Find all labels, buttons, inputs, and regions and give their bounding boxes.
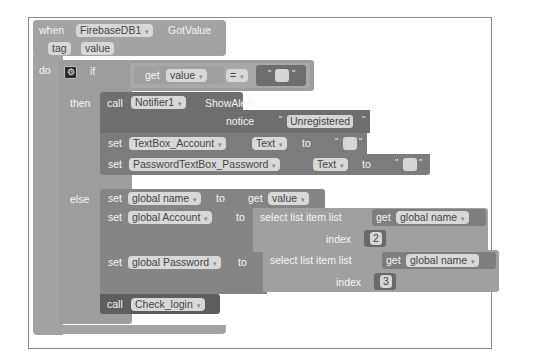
text-literal-empty[interactable] xyxy=(275,69,289,82)
component-dropdown-password-textbox[interactable]: PasswordTextBox_Password▾ xyxy=(129,158,280,171)
component-dropdown-firebasedb1[interactable]: FirebaseDB1▾ xyxy=(76,24,153,37)
to-label: to xyxy=(236,210,245,224)
else-label: else xyxy=(70,192,89,206)
component-name: TextBox_Account xyxy=(133,137,214,149)
var-dropdown-global-name[interactable]: global name▾ xyxy=(396,211,469,224)
text-literal-unregistered[interactable]: Unregistered xyxy=(287,115,353,128)
get-label: get xyxy=(386,253,401,267)
to-label: to xyxy=(216,191,225,205)
set-label: set xyxy=(108,191,122,205)
dropdown-arrow-icon: ▾ xyxy=(193,196,197,203)
var-name: value xyxy=(170,69,195,81)
dropdown-arrow-icon: ▾ xyxy=(301,196,305,203)
call-label: call xyxy=(107,297,123,311)
dropdown-arrow-icon: ▾ xyxy=(204,215,208,222)
property-name: Text xyxy=(317,158,336,170)
param-value[interactable]: value xyxy=(81,42,114,55)
quote-icon: " xyxy=(335,136,338,146)
dropdown-arrow-icon: ▾ xyxy=(197,302,201,309)
dropdown-arrow-icon: ▾ xyxy=(178,100,182,107)
var-name: global Password xyxy=(132,256,209,268)
set-label: set xyxy=(108,255,122,269)
operator: = xyxy=(230,69,236,81)
quote-icon: " xyxy=(362,114,365,124)
var-name: global name xyxy=(410,254,467,266)
select-list-item-label: select list item list xyxy=(260,210,342,224)
number-literal-2[interactable]: 2 xyxy=(370,232,382,245)
text-literal-empty[interactable] xyxy=(343,137,357,150)
component-name: Notifier1 xyxy=(135,96,174,108)
var-name: value xyxy=(272,192,297,204)
property-dropdown-text[interactable]: Text▾ xyxy=(252,137,287,150)
property-dropdown-text[interactable]: Text▾ xyxy=(313,158,348,171)
notice-label: notice xyxy=(226,114,254,128)
param-tag[interactable]: tag xyxy=(48,42,71,55)
component-name: PasswordTextBox_Password xyxy=(133,158,268,170)
dropdown-arrow-icon: ▾ xyxy=(279,141,283,148)
quote-icon: " xyxy=(359,136,362,146)
dropdown-arrow-icon: ▾ xyxy=(199,73,203,80)
text-literal-empty[interactable] xyxy=(403,158,417,171)
operator-dropdown[interactable]: =▾ xyxy=(226,69,248,82)
call-label: call xyxy=(107,96,123,110)
component-dropdown-textbox-account[interactable]: TextBox_Account▾ xyxy=(129,137,226,150)
var-dropdown-value[interactable]: value▾ xyxy=(268,192,309,205)
component-dropdown-notifier1[interactable]: Notifier1▾ xyxy=(131,96,186,109)
var-name: global Account xyxy=(132,211,200,223)
select-list-item-label: select list item list xyxy=(270,253,352,267)
quote-icon: " xyxy=(395,157,398,167)
dropdown-arrow-icon: ▾ xyxy=(240,73,244,80)
dropdown-arrow-icon: ▾ xyxy=(471,258,475,265)
mutator-gear-icon[interactable]: ⚙ xyxy=(64,66,77,79)
index-label: index xyxy=(326,232,351,246)
get-label: get xyxy=(248,191,263,205)
dropdown-arrow-icon: ▾ xyxy=(218,141,222,148)
dropdown-arrow-icon: ▾ xyxy=(213,260,217,267)
procedure-dropdown-check-login[interactable]: Check_login▾ xyxy=(131,298,205,311)
property-name: Text xyxy=(256,137,275,149)
quote-icon: " xyxy=(268,68,271,78)
dropdown-arrow-icon: ▾ xyxy=(272,162,276,169)
method-name: ShowAlert xyxy=(205,96,253,110)
dropdown-arrow-icon: ▾ xyxy=(461,215,465,222)
quote-icon: " xyxy=(419,157,422,167)
event-name: GotValue xyxy=(168,23,211,37)
dropdown-arrow-icon: ▾ xyxy=(340,162,344,169)
do-label: do xyxy=(39,63,51,77)
quote-icon: " xyxy=(292,68,295,78)
var-dropdown-value[interactable]: value▾ xyxy=(166,69,207,82)
to-label: to xyxy=(362,157,371,171)
event-block-bottom xyxy=(33,325,226,334)
dropdown-arrow-icon: ▾ xyxy=(145,28,149,35)
index-label: index xyxy=(336,275,361,289)
var-dropdown-global-name[interactable]: global name▾ xyxy=(128,192,201,205)
number-literal-3[interactable]: 3 xyxy=(380,275,392,288)
if-label: if xyxy=(90,64,95,78)
set-label: set xyxy=(108,210,122,224)
var-name: global name xyxy=(132,192,189,204)
to-label: to xyxy=(302,136,311,150)
var-dropdown-global-password[interactable]: global Password▾ xyxy=(128,256,221,269)
when-label: when xyxy=(39,23,64,37)
var-dropdown-global-name[interactable]: global name▾ xyxy=(406,254,479,267)
component-name: FirebaseDB1 xyxy=(80,24,141,36)
var-name: global name xyxy=(400,211,457,223)
to-label: to xyxy=(238,255,247,269)
quote-icon: " xyxy=(279,114,282,124)
procedure-name: Check_login xyxy=(135,298,193,310)
set-label: set xyxy=(108,157,122,171)
var-dropdown-global-account[interactable]: global Account▾ xyxy=(128,211,212,224)
set-label: set xyxy=(108,136,122,150)
then-label: then xyxy=(70,96,90,110)
get-label: get xyxy=(145,68,160,82)
get-label: get xyxy=(376,210,391,224)
